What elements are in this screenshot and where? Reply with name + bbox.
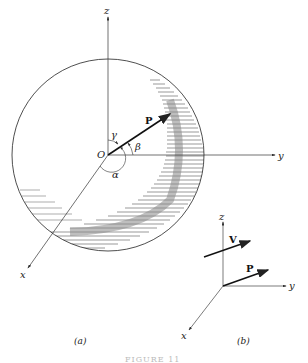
panel-b-caption: (b) (237, 336, 250, 346)
b-y-axis-label: y (288, 280, 295, 291)
figure-caption: FIGURE 11 (125, 355, 180, 363)
x-axis (28, 155, 108, 268)
x-axis-label: x (20, 269, 26, 280)
diagram-canvas: z y x O P γ β α (a) z y x V P (b) FIGURE… (0, 0, 308, 363)
b-x-axis-label: x (181, 330, 187, 341)
panel-a-caption: (a) (74, 336, 87, 346)
gamma-label: γ (111, 129, 117, 140)
vector-p-b-label: P (246, 263, 254, 274)
beta-label: β (134, 141, 141, 152)
vector-v (204, 241, 250, 257)
beta-arc (128, 143, 133, 155)
panel-a: z y x O P γ β α (a) (12, 5, 284, 346)
origin-label: O (97, 149, 105, 160)
vector-p-label: P (145, 115, 153, 126)
b-z-axis-label: z (218, 211, 225, 222)
gamma-arc (108, 140, 118, 144)
alpha-label: α (112, 169, 119, 180)
y-axis-label: y (277, 150, 284, 161)
b-x-axis (189, 286, 223, 330)
vector-v-label: V (228, 234, 237, 245)
z-axis-label: z (103, 5, 110, 16)
panel-b: z y x V P (b) (181, 211, 295, 346)
